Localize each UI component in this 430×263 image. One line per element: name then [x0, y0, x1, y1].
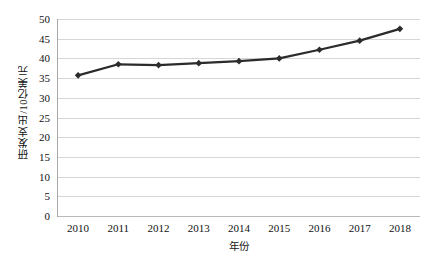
data-point-marker — [115, 61, 122, 68]
y-axis-tick-label: 20 — [24, 132, 50, 143]
y-axis-tick-label: 30 — [24, 92, 50, 103]
data-point-marker — [195, 60, 202, 67]
y-axis-tick-label: 40 — [24, 53, 50, 64]
x-axis-tick-label: 2012 — [139, 222, 179, 235]
x-axis-tick-label: 2013 — [179, 222, 219, 235]
data-point-marker — [236, 58, 243, 65]
x-axis-tick-label: 2015 — [259, 222, 299, 235]
x-axis-tick-label: 2017 — [340, 222, 380, 235]
data-point-marker — [155, 62, 162, 69]
x-axis-tick-label: 2018 — [380, 222, 420, 235]
data-point-marker — [316, 46, 323, 53]
x-axis-tick-labels: 201020112012201320142015201620172018 — [58, 222, 420, 238]
y-axis-tick-label: 5 — [24, 191, 50, 202]
y-axis-tick-label: 0 — [24, 211, 50, 222]
y-axis-tick-label: 45 — [24, 33, 50, 44]
x-axis-tick-label: 2016 — [299, 222, 339, 235]
data-point-marker — [397, 26, 404, 33]
y-axis-tick-label: 25 — [24, 112, 50, 123]
gridline — [58, 216, 420, 217]
data-point-marker — [276, 55, 283, 62]
data-point-marker — [356, 37, 363, 44]
x-axis-title: 年份 — [58, 238, 420, 253]
data-series — [58, 19, 420, 216]
y-axis-tick-label: 10 — [24, 171, 50, 182]
y-axis-tick-label: 35 — [24, 73, 50, 84]
y-axis-tick-label: 15 — [24, 151, 50, 162]
plot-area: 05101520253035404550 — [58, 19, 420, 216]
x-axis-tick-label: 2014 — [219, 222, 259, 235]
data-point-marker — [75, 72, 82, 79]
x-axis-tick-label: 2010 — [58, 222, 98, 235]
line-chart: 研发支出/10亿美元 05101520253035404550 20102011… — [0, 0, 430, 263]
series-line — [78, 29, 400, 75]
x-axis-tick-label: 2011 — [98, 222, 138, 235]
y-axis-tick-label: 50 — [24, 14, 50, 25]
